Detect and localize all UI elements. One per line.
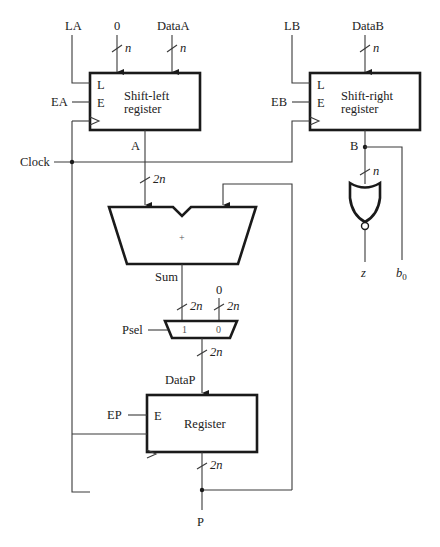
bus-width-label: 2n [227, 299, 240, 313]
b-label: B [350, 139, 358, 153]
pin-l-label: L [317, 78, 325, 92]
data-b-label: DataB [352, 19, 384, 33]
multiplexer: 1 0 [165, 321, 237, 338]
bus-width-label: n [180, 41, 186, 55]
pin-e-label: E [154, 409, 162, 423]
bus-width-label: n [125, 41, 131, 55]
zero-input-label: 0 [114, 19, 120, 33]
bus-width-label: n [373, 41, 379, 55]
junction-dot [200, 488, 204, 492]
z-label: z [360, 266, 366, 280]
inverter-bubble-icon [362, 223, 369, 230]
mux-input-0: 0 [216, 324, 221, 335]
psel-label: Psel [122, 323, 143, 337]
shift-left-subtitle: register [124, 102, 162, 116]
b0-label: b0 [396, 266, 407, 282]
mux-input-1: 1 [182, 324, 187, 335]
lb-label: LB [284, 19, 300, 33]
product-register: E Register [147, 395, 257, 458]
nor-gate [350, 183, 380, 230]
bus-width-label: 2n [210, 458, 223, 472]
shift-right-subtitle: register [341, 102, 379, 116]
clock-branch-wire [72, 121, 90, 492]
bus-width-label: 2n [190, 299, 203, 313]
shift-right-title: Shift-right [341, 89, 394, 103]
junction-dot [70, 160, 74, 164]
ep-label: EP [107, 408, 122, 422]
bus-width-label: 2n [153, 172, 166, 186]
pin-e-label: E [317, 96, 325, 110]
pin-l-label: L [97, 78, 105, 92]
shift-right-register: L E Shift-right register [310, 73, 420, 130]
eb-label: EB [271, 95, 287, 109]
shift-left-register: L E Shift-left register [90, 73, 200, 130]
bus-width-label: 2n [210, 345, 223, 359]
pin-e-label: E [97, 96, 105, 110]
bus-width-label: n [373, 164, 379, 178]
clock-label: Clock [20, 155, 51, 169]
shift-left-title: Shift-left [124, 89, 170, 103]
lb-wire [292, 35, 310, 83]
adder: + [109, 207, 256, 264]
la-wire [72, 35, 90, 83]
ea-label: EA [51, 95, 68, 109]
multiplier-datapath-diagram: L E Shift-left register LA 0 n DataA n E… [0, 0, 440, 547]
la-label: LA [65, 19, 82, 33]
a-label: A [131, 139, 140, 153]
sum-label: Sum [155, 270, 178, 284]
data-a-label: DataA [157, 19, 190, 33]
register-title: Register [184, 417, 226, 431]
adder-plus-symbol: + [179, 232, 185, 243]
zero-mux-label: 0 [216, 283, 222, 297]
p-label: P [197, 515, 204, 529]
nor-gate-icon [350, 183, 380, 222]
datap-label: DataP [165, 373, 196, 387]
